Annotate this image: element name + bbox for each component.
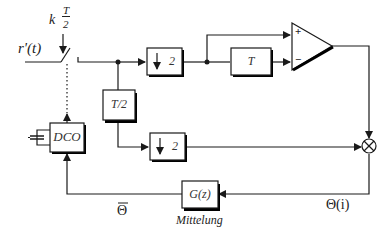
junction-dot	[116, 60, 121, 65]
switch-output	[78, 57, 118, 62]
theta-i-label: Θ(i)	[326, 197, 349, 213]
switch-k-label: k	[49, 12, 55, 28]
filter-label: G(z)	[182, 187, 218, 202]
dco-label: DCO	[50, 129, 84, 145]
switch-blade	[61, 48, 70, 62]
downsample-bottom-factor: 2	[166, 139, 184, 154]
input-signal-label: r'(t)	[18, 40, 41, 57]
theta-bar-label: Θ	[117, 203, 127, 219]
delay-t2-label: T/2	[103, 97, 135, 112]
downsample-top-factor: 2	[163, 54, 181, 69]
delay-t-label: T	[231, 54, 271, 69]
switch-fraction-den: 2	[63, 18, 69, 30]
switch-fraction-num: T	[62, 4, 70, 17]
comparator-minus: −	[295, 53, 301, 65]
junction-dot	[205, 60, 210, 65]
comparator-plus: +	[295, 25, 301, 37]
filter-caption: Mittelung	[176, 213, 223, 228]
